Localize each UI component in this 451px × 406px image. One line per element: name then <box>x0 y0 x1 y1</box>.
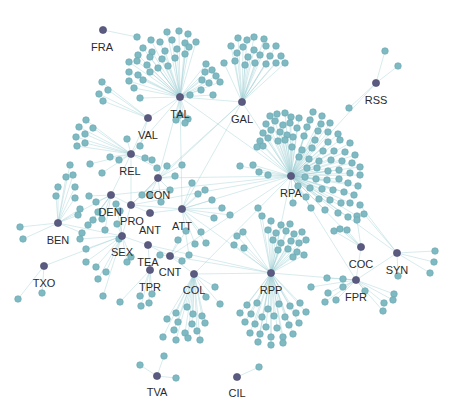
leaf-node[interactable] <box>164 316 171 323</box>
leaf-node[interactable] <box>83 259 90 266</box>
leaf-node[interactable] <box>131 85 138 92</box>
leaf-node[interactable] <box>99 170 106 177</box>
hub-node-fpr[interactable] <box>352 276 359 283</box>
leaf-node[interactable] <box>184 304 191 311</box>
leaf-node[interactable] <box>261 36 268 43</box>
leaf-node[interactable] <box>290 200 297 207</box>
leaf-node[interactable] <box>351 192 358 199</box>
leaf-node[interactable] <box>286 322 293 329</box>
leaf-node[interactable] <box>219 205 226 212</box>
leaf-node[interactable] <box>197 337 204 344</box>
leaf-node[interactable] <box>147 54 154 61</box>
leaf-node[interactable] <box>254 300 261 307</box>
leaf-node[interactable] <box>100 293 107 300</box>
leaf-node[interactable] <box>217 301 224 308</box>
leaf-node[interactable] <box>256 364 263 371</box>
leaf-node[interactable] <box>138 303 145 310</box>
leaf-node[interactable] <box>273 230 280 237</box>
leaf-node[interactable] <box>147 69 154 76</box>
leaf-node[interactable] <box>90 217 97 224</box>
leaf-node[interactable] <box>67 162 74 169</box>
hub-node-den[interactable] <box>107 191 114 198</box>
leaf-node[interactable] <box>267 113 274 120</box>
leaf-node[interactable] <box>160 334 167 341</box>
leaf-node[interactable] <box>144 62 151 69</box>
leaf-node[interactable] <box>157 39 164 46</box>
leaf-node[interactable] <box>244 37 251 44</box>
leaf-node[interactable] <box>232 58 239 65</box>
hub-node-ben[interactable] <box>54 219 61 226</box>
leaf-node[interactable] <box>173 337 180 344</box>
leaf-node[interactable] <box>189 321 196 328</box>
leaf-node[interactable] <box>198 87 205 94</box>
leaf-node[interactable] <box>263 324 270 331</box>
leaf-node[interactable] <box>395 63 402 70</box>
leaf-node[interactable] <box>285 246 292 253</box>
leaf-node[interactable] <box>337 137 344 144</box>
leaf-node[interactable] <box>361 211 368 218</box>
leaf-node[interactable] <box>345 180 352 187</box>
leaf-node[interactable] <box>139 192 146 199</box>
leaf-node[interactable] <box>390 297 397 304</box>
hub-node-rel[interactable] <box>127 150 134 157</box>
leaf-node[interactable] <box>126 59 133 66</box>
leaf-node[interactable] <box>307 185 314 192</box>
leaf-node[interactable] <box>175 319 182 326</box>
leaf-node[interactable] <box>254 144 261 151</box>
leaf-node[interactable] <box>252 321 259 328</box>
leaf-node[interactable] <box>319 186 326 193</box>
leaf-node[interactable] <box>179 162 186 169</box>
leaf-node[interactable] <box>290 331 297 338</box>
leaf-node[interactable] <box>17 224 24 231</box>
leaf-node[interactable] <box>242 319 249 326</box>
leaf-node[interactable] <box>140 77 147 84</box>
leaf-node[interactable] <box>303 237 310 244</box>
leaf-node[interactable] <box>265 306 272 313</box>
leaf-node[interactable] <box>85 222 92 229</box>
leaf-node[interactable] <box>380 308 387 315</box>
leaf-node[interactable] <box>307 117 314 124</box>
leaf-node[interactable] <box>315 128 322 135</box>
leaf-node[interactable] <box>273 60 280 67</box>
leaf-node[interactable] <box>240 229 247 236</box>
leaf-node[interactable] <box>275 247 282 254</box>
leaf-node[interactable] <box>149 157 156 164</box>
leaf-node[interactable] <box>282 314 289 321</box>
leaf-node[interactable] <box>345 214 352 221</box>
leaf-node[interactable] <box>55 184 62 191</box>
leaf-node[interactable] <box>124 136 131 143</box>
leaf-node[interactable] <box>268 342 275 349</box>
leaf-node[interactable] <box>248 311 255 318</box>
leaf-node[interactable] <box>278 222 285 229</box>
leaf-node[interactable] <box>186 44 193 51</box>
leaf-node[interactable] <box>240 44 247 51</box>
leaf-node[interactable] <box>146 300 153 307</box>
leaf-node[interactable] <box>299 147 306 154</box>
leaf-node[interactable] <box>296 115 303 122</box>
leaf-node[interactable] <box>140 45 147 52</box>
leaf-node[interactable] <box>134 34 141 41</box>
leaf-node[interactable] <box>135 52 142 59</box>
leaf-node[interactable] <box>172 173 179 180</box>
hub-node-con[interactable] <box>154 174 161 181</box>
leaf-node[interactable] <box>291 231 298 238</box>
hub-node-coc[interactable] <box>357 243 364 250</box>
leaf-node[interactable] <box>282 137 289 144</box>
leaf-node[interactable] <box>164 163 171 170</box>
hub-node-tea[interactable] <box>144 241 151 248</box>
leaf-node[interactable] <box>251 34 258 41</box>
leaf-node[interactable] <box>164 29 171 36</box>
leaf-node[interactable] <box>137 95 144 102</box>
leaf-node[interactable] <box>63 174 70 181</box>
leaf-node[interactable] <box>278 53 285 60</box>
leaf-node[interactable] <box>15 296 22 303</box>
leaf-node[interactable] <box>247 330 254 337</box>
hub-node-cil[interactable] <box>233 373 240 380</box>
leaf-node[interactable] <box>357 172 364 179</box>
leaf-node[interactable] <box>290 254 297 261</box>
leaf-node[interactable] <box>325 139 332 146</box>
leaf-node[interactable] <box>391 291 398 298</box>
leaf-node[interactable] <box>270 237 277 244</box>
leaf-node[interactable] <box>95 276 102 283</box>
leaf-node[interactable] <box>268 127 275 134</box>
